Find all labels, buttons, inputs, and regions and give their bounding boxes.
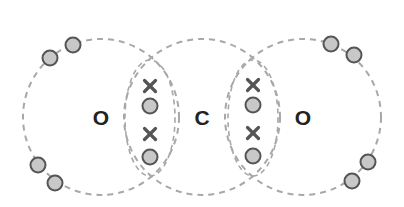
- electron-dot-icon: [143, 99, 158, 114]
- electron-dot-icon: [246, 149, 261, 164]
- atom-label-oxygen-left: O: [93, 106, 109, 129]
- co2-dot-cross-diagram: O C O: [0, 0, 404, 207]
- electron-cross-icon: [248, 80, 259, 91]
- electron-dot-icon: [347, 48, 362, 63]
- electron-cross-icon: [145, 81, 156, 92]
- electron-dot-icon: [43, 51, 58, 66]
- atom-label-oxygen-right: O: [295, 106, 311, 129]
- electron-dot-icon: [246, 98, 261, 113]
- electron-dot-icon: [324, 37, 339, 52]
- electron-dot-icon: [361, 155, 376, 170]
- electron-dot-icon: [143, 150, 158, 165]
- electron-dot-icon: [66, 38, 81, 53]
- electron-cross-icon: [145, 129, 156, 140]
- electron-dot-icon: [31, 158, 46, 173]
- atom-label-carbon: C: [194, 106, 209, 129]
- electron-dot-icon: [48, 176, 63, 191]
- electron-cross-icon: [248, 128, 259, 139]
- electron-dot-icon: [345, 174, 360, 189]
